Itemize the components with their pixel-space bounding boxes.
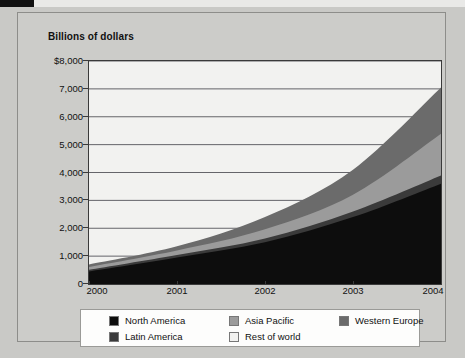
x-axis-tick-label: 2004 — [422, 285, 443, 296]
legend-label: Western Europe — [355, 315, 423, 326]
legend-label: Latin America — [125, 331, 183, 342]
y-axis-tick-label: 7,000 — [59, 82, 83, 93]
x-axis-tick — [441, 281, 442, 285]
y-axis-tick-label: 3,000 — [59, 194, 83, 205]
plot-area — [88, 60, 442, 285]
legend-swatch — [109, 332, 119, 342]
y-axis-tick-label: 5,000 — [59, 138, 83, 149]
y-axis-tick-label: 2,000 — [59, 222, 83, 233]
legend-item-asia-pacific[interactable]: Asia Pacific — [229, 315, 294, 326]
y-axis-tick-label: 1,000 — [59, 250, 83, 261]
x-axis-tick — [265, 281, 266, 285]
y-axis-labels: 01,0002,0003,0004,0005,0006,0007,000$8,0… — [36, 60, 83, 283]
legend-row: North AmericaAsia PacificWestern Europe — [81, 315, 419, 330]
x-axis-tick-label: 2001 — [166, 285, 187, 296]
legend-label: Rest of world — [245, 331, 300, 342]
legend-label: North America — [125, 315, 185, 326]
legend-swatch — [339, 316, 349, 326]
legend-item-western-europe[interactable]: Western Europe — [339, 315, 423, 326]
x-axis-tick — [89, 281, 90, 285]
x-axis-tick-label: 2000 — [86, 285, 107, 296]
x-axis-tick — [353, 281, 354, 285]
y-axis-tick-label: 4,000 — [59, 166, 83, 177]
scan-top-strip — [34, 0, 465, 7]
legend-swatch — [109, 316, 119, 326]
chart-title: Billions of dollars — [48, 31, 134, 42]
chart-card: Billions of dollars 01,0002,0003,0004,00… — [17, 12, 446, 342]
legend-item-north-america[interactable]: North America — [109, 315, 185, 326]
legend-swatch — [229, 332, 239, 342]
y-axis-tick-label: 6,000 — [59, 110, 83, 121]
x-axis-tick — [177, 281, 178, 285]
legend-label: Asia Pacific — [245, 315, 294, 326]
x-axis-tick-label: 2003 — [342, 285, 363, 296]
legend-item-latin-america[interactable]: Latin America — [109, 331, 183, 342]
legend-swatch — [229, 316, 239, 326]
chart-legend: North AmericaAsia PacificWestern Europe … — [80, 309, 420, 347]
y-axis-tick-label: $8,000 — [54, 55, 83, 66]
scan-artifact-mark — [0, 0, 34, 7]
legend-item-rest-of-world[interactable]: Rest of world — [229, 331, 300, 342]
stacked-area-plot — [89, 61, 441, 284]
x-axis-tick-label: 2002 — [254, 285, 275, 296]
x-axis-labels: 20002001200220032004 — [88, 285, 442, 301]
legend-row: Latin AmericaRest of world — [81, 331, 419, 346]
